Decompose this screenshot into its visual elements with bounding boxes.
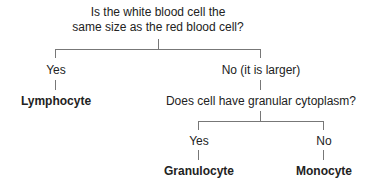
yes-label: Yes [46, 63, 66, 77]
no-label: No (it is larger) [222, 63, 301, 77]
root-question-line1: Is the white blood cell the [91, 5, 226, 19]
sub-right-drop [323, 121, 324, 130]
granulocyte-result: Granulocyte [164, 164, 234, 178]
root-stem [158, 39, 159, 49]
lymphocyte-result: Lymphocyte [21, 94, 91, 108]
root-split-line [55, 49, 260, 50]
sub-split-line [198, 121, 323, 122]
yes-stem [55, 80, 56, 90]
sub-yes-label: Yes [189, 134, 209, 148]
left-drop [55, 49, 56, 58]
right-drop [260, 49, 261, 58]
granular-question: Does cell have granular cytoplasm? [166, 94, 356, 108]
sub-left-drop [198, 121, 199, 130]
sub-yes-stem [198, 150, 199, 160]
sub-stem [260, 111, 261, 121]
root-question-line2: same size as the red blood cell? [72, 20, 243, 34]
monocyte-result: Monocyte [296, 164, 352, 178]
sub-no-stem [323, 150, 324, 160]
sub-no-label: No [316, 134, 331, 148]
no-stem [260, 80, 261, 90]
